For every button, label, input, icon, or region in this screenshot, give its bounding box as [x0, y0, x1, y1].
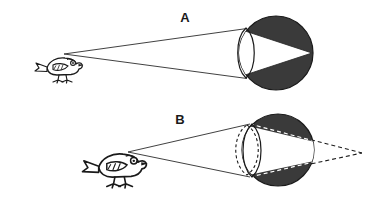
bird-icon-b	[83, 154, 148, 188]
panel-b: B	[83, 112, 363, 188]
panel-label-a: A	[180, 10, 190, 25]
ray-upper-incident-b	[128, 124, 250, 152]
panel-a-incident-rays	[64, 29, 247, 79]
ray-lower-incident-a	[64, 54, 247, 79]
panel-b-incident-rays	[128, 124, 250, 177]
eye-accommodation-diagram: A	[0, 0, 370, 201]
diagram-root: A	[0, 0, 370, 201]
panel-a: A	[35, 10, 313, 90]
ray-upper-incident-a	[64, 29, 247, 55]
panel-label-b: B	[175, 112, 184, 127]
bird-icon-a	[35, 58, 84, 83]
